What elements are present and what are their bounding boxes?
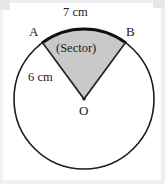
center-point-marker [82,97,85,100]
circle-sector-figure: 7 cm A B (Sector) 6 cm O [0,0,165,184]
point-a-label: A [29,25,38,38]
sector-caption-label: (Sector) [56,42,96,55]
radius-length-label: 6 cm [28,71,53,84]
point-b-label: B [126,25,135,38]
center-point-label: O [79,104,88,117]
arc-length-label: 7 cm [63,6,88,19]
geometry-drawing [0,0,165,184]
